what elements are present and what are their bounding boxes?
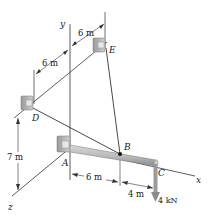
axis-label-y: y (59, 19, 66, 29)
dim-label-7m: 7 m (7, 152, 23, 162)
beam-AC (70, 145, 156, 166)
dim-label-top: 6 m (78, 28, 94, 38)
label-D: D (31, 113, 39, 123)
dim-label-AB: 6 m (86, 172, 102, 182)
arrow-head (72, 173, 78, 177)
arrow-head (72, 41, 77, 46)
cable-EB (106, 48, 120, 154)
dim-label-left: 6 m (42, 58, 58, 68)
dim-label-BC: 4 m (128, 189, 144, 199)
arrow-head (63, 50, 68, 55)
arrow-head (16, 118, 20, 124)
label-E: E (108, 45, 116, 55)
load-label: 4 kN (158, 196, 177, 205)
axis-label-x: x (196, 175, 201, 185)
diagram-root: 6 m 6 m 7 m 6 m 4 m 4 (0, 0, 209, 215)
label-A: A (61, 158, 69, 168)
label-B: B (123, 142, 131, 152)
arrow-head (99, 24, 104, 29)
axis-label-z: z (7, 202, 13, 212)
label-C: C (158, 168, 165, 178)
support-A (57, 136, 70, 152)
arrow-head (16, 184, 20, 190)
boom-cable-diagram: 6 m 6 m 7 m 6 m 4 m 4 (0, 0, 209, 215)
point-B (118, 152, 122, 156)
support-D (21, 96, 33, 110)
arrow-head (36, 69, 41, 74)
arrow-head (147, 185, 153, 189)
arrow-head (112, 179, 118, 183)
arrow-head (122, 181, 128, 185)
support-E (93, 38, 105, 52)
